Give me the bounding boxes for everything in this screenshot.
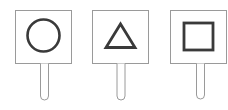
sign-stick [117, 64, 125, 101]
sign-stick [197, 64, 205, 100]
sign-circle [16, 11, 72, 101]
sign-board [93, 11, 149, 64]
sign-square [171, 11, 227, 100]
sign-stick [41, 64, 49, 101]
signs-illustration [0, 0, 228, 110]
sign-triangle [93, 11, 149, 101]
sign-board [171, 11, 227, 64]
